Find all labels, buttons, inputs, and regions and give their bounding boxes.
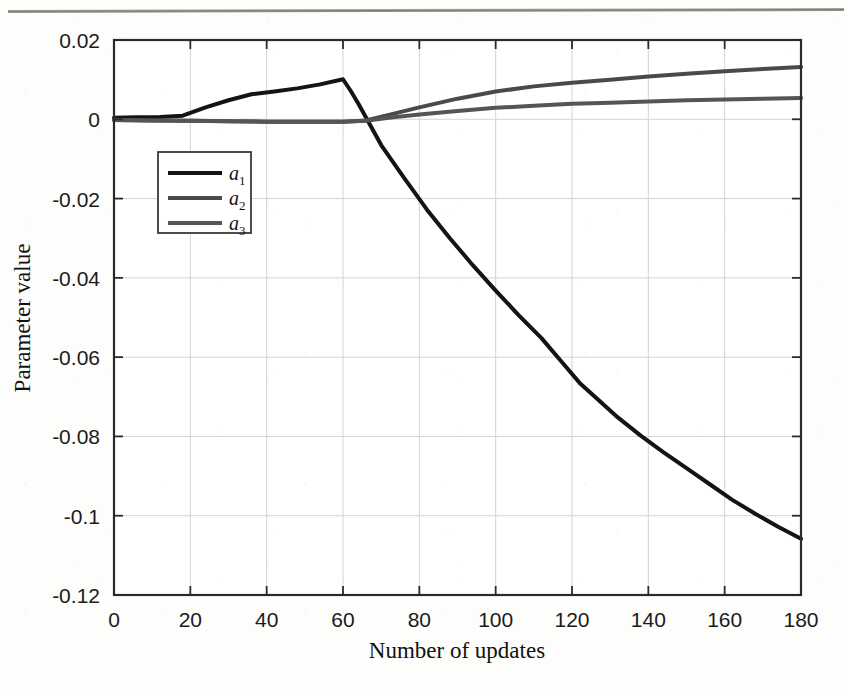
y-tick-label: -0.02 — [52, 188, 100, 211]
y-tick-label: 0.02 — [59, 29, 100, 52]
figure-parameter-value-vs-updates: 0.020-0.02-0.04-0.06-0.08-0.1-0.12 02040… — [0, 0, 848, 690]
y-tick-label: 0 — [88, 108, 100, 131]
x-tick-label: 40 — [255, 608, 278, 631]
x-tick-label: 20 — [179, 608, 202, 631]
legend-subscript-a_2: 2 — [239, 198, 246, 213]
legend[interactable]: a1a2a3 — [158, 152, 251, 238]
y-tick-label: -0.12 — [52, 584, 100, 607]
y-tick-label: -0.1 — [64, 505, 100, 528]
x-axis-tick-labels: 020406080100120140160180 — [108, 608, 818, 631]
x-tick-label: 120 — [554, 608, 589, 631]
x-tick-label: 160 — [707, 608, 742, 631]
y-tick-label: -0.04 — [52, 267, 100, 290]
y-axis-title: Parameter value — [10, 244, 35, 393]
x-tick-label: 140 — [631, 608, 666, 631]
x-tick-label: 0 — [108, 608, 120, 631]
x-tick-label: 100 — [478, 608, 513, 631]
x-tick-label: 180 — [783, 608, 818, 631]
y-tick-label: -0.08 — [52, 425, 100, 448]
y-axis-tick-labels: 0.020-0.02-0.04-0.06-0.08-0.1-0.12 — [52, 29, 100, 607]
scanned-page: 0.020-0.02-0.04-0.06-0.08-0.1-0.12 02040… — [0, 0, 848, 690]
x-tick-label: 80 — [408, 608, 431, 631]
y-tick-label: -0.06 — [52, 346, 100, 369]
x-tick-label: 60 — [331, 608, 354, 631]
chart-canvas: 0.020-0.02-0.04-0.06-0.08-0.1-0.12 02040… — [0, 0, 848, 690]
plot-background — [114, 40, 801, 595]
legend-subscript-a_3: 3 — [239, 223, 246, 238]
x-axis-title: Number of updates — [369, 638, 545, 663]
legend-subscript-a_1: 1 — [239, 173, 246, 188]
